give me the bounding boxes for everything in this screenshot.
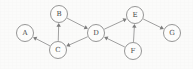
edge-e-to-g — [143, 19, 161, 28]
graph-node-d[interactable]: D — [88, 25, 105, 42]
edge-d-to-e — [104, 20, 124, 29]
node-label-d: D — [93, 29, 99, 37]
node-label-b: B — [56, 10, 61, 18]
node-label-e: E — [132, 11, 137, 19]
graph-canvas: ABCDEFG — [0, 0, 193, 69]
graph-node-f[interactable]: F — [125, 43, 142, 60]
node-label-a: A — [21, 29, 28, 37]
graph-node-c[interactable]: C — [50, 42, 67, 59]
node-label-c: C — [55, 46, 60, 54]
node-label-g: G — [169, 29, 175, 37]
graph-diagram: ABCDEFG — [0, 0, 193, 69]
edge-f-to-d — [107, 38, 125, 47]
graph-node-g[interactable]: G — [164, 25, 181, 42]
edge-d-to-c — [69, 37, 88, 45]
edge-f-to-e — [134, 27, 135, 42]
graph-node-e[interactable]: E — [127, 7, 144, 24]
arrowhead-f-to-e — [132, 24, 136, 28]
graph-node-a[interactable]: A — [17, 25, 34, 42]
arrowhead-c-to-b — [56, 23, 60, 27]
node-label-f: F — [131, 47, 136, 55]
nodes-layer: ABCDEFG — [17, 6, 181, 60]
graph-node-b[interactable]: B — [51, 6, 68, 23]
edge-c-to-a — [35, 38, 49, 45]
edge-b-to-d — [67, 18, 85, 27]
